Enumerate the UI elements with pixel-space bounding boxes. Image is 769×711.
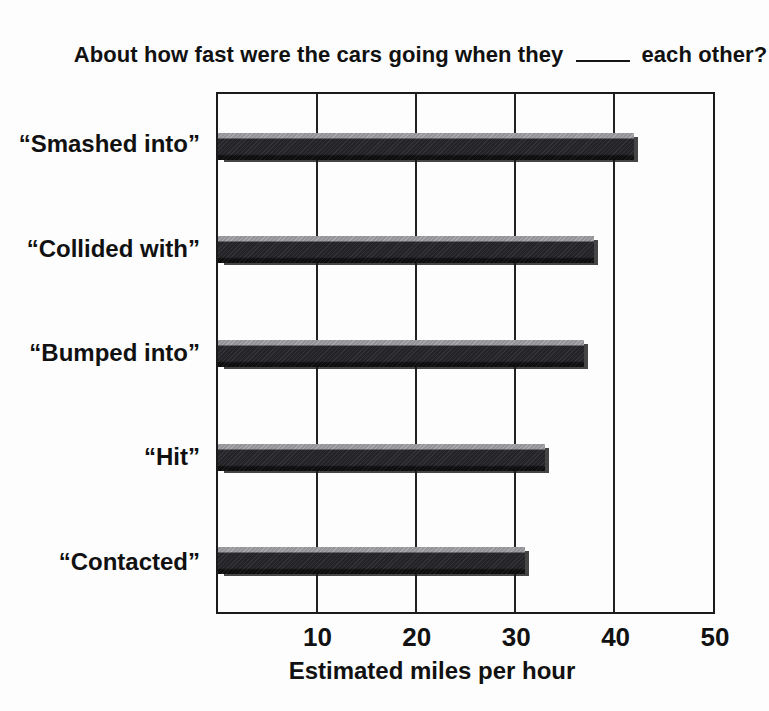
category-label-5: “Contacted” xyxy=(59,548,200,576)
gridline-40 xyxy=(613,94,615,612)
title-blank-underline xyxy=(576,58,630,62)
category-label-1: “Smashed into” xyxy=(19,130,200,158)
bar-4 xyxy=(218,444,545,471)
x-tick-label-30: 30 xyxy=(502,622,531,653)
bar-5 xyxy=(218,547,525,574)
bar-texture xyxy=(218,444,545,471)
x-axis-label: Estimated miles per hour xyxy=(0,657,769,685)
category-label-4: “Hit” xyxy=(144,443,200,471)
x-tick-label-40: 40 xyxy=(601,622,630,653)
bar-texture xyxy=(218,547,525,574)
category-label-3: “Bumped into” xyxy=(29,339,200,367)
bar-2 xyxy=(218,236,594,263)
x-tick-label-20: 20 xyxy=(402,622,431,653)
chart-title-suffix: each other? xyxy=(641,42,767,67)
x-axis-tick-row: 1020304050 xyxy=(218,622,715,652)
bar-3 xyxy=(218,340,584,367)
x-tick-label-50: 50 xyxy=(701,622,730,653)
plot-area xyxy=(216,92,715,614)
chart-title: About how fast were the cars going when … xyxy=(0,42,769,68)
chart-title-prefix: About how fast were the cars going when … xyxy=(74,42,564,67)
category-label-2: “Collided with” xyxy=(27,235,200,263)
bar-chart-figure: About how fast were the cars going when … xyxy=(0,0,769,711)
bar-1 xyxy=(218,133,634,160)
bar-texture xyxy=(218,236,594,263)
x-tick-label-10: 10 xyxy=(303,622,332,653)
category-label-column: “Smashed into”“Collided with”“Bumped int… xyxy=(0,92,208,614)
bar-texture xyxy=(218,340,584,367)
bar-texture xyxy=(218,133,634,160)
